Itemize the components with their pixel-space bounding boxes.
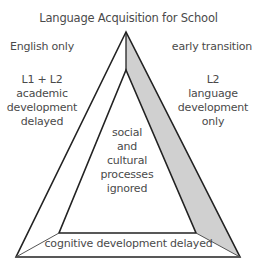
left-side-line-4: delayed [2,115,82,129]
right-side-line-2: language [170,87,256,101]
corner-label-right: early transition [168,40,256,54]
center-line-1: social [86,126,168,140]
center-label: social and cultural processes ignored [86,126,168,196]
left-side-label: L1 + L2 academic development delayed [2,73,82,129]
right-side-line-4: only [170,115,256,129]
center-line-3: cultural [86,154,168,168]
right-side-line-3: development [170,101,256,115]
left-side-line-2: academic [2,87,82,101]
left-side-line-1: L1 + L2 [2,73,82,87]
bottom-label: cognitive development delayed [40,237,217,251]
center-line-2: and [86,140,168,154]
left-side-line-3: development [2,101,82,115]
right-side-label: L2 language development only [170,73,256,129]
center-line-5: ignored [86,182,168,196]
right-side-line-1: L2 [170,73,256,87]
diagram-title: Language Acquisition for School [0,11,257,25]
corner-label-left: English only [2,40,82,54]
center-line-4: processes [86,168,168,182]
